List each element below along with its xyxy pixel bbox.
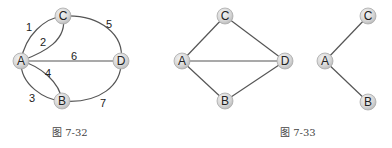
caption-figure-7-33: 图 7-33 <box>280 124 316 139</box>
caption-figure-7-32: 图 7-32 <box>52 124 88 139</box>
edge-a-c <box>325 16 368 61</box>
figure-7-33-graph-right: C A B <box>317 8 376 110</box>
edge-label-4: 4 <box>45 67 51 79</box>
edge-label-7: 7 <box>100 97 106 109</box>
svg-text:A: A <box>17 54 25 68</box>
edge-a-b <box>182 61 225 101</box>
node-a: A <box>317 53 333 69</box>
svg-text:C: C <box>59 9 68 23</box>
figure-7-33-graph-left: C A D B <box>174 8 293 109</box>
svg-text:C: C <box>221 9 230 23</box>
edge-label-3: 3 <box>29 92 35 104</box>
edge-a-c <box>182 16 225 61</box>
svg-text:A: A <box>178 54 186 68</box>
svg-text:D: D <box>117 54 126 68</box>
edge-3-a-b <box>21 61 62 101</box>
node-a: A <box>174 53 190 69</box>
edge-label-1: 1 <box>26 21 32 33</box>
edge-7-b-d <box>62 61 121 101</box>
figure-7-32: 1 2 3 4 5 6 7 C A D B <box>13 8 129 109</box>
node-b: B <box>360 94 376 110</box>
svg-text:D: D <box>281 54 290 68</box>
node-c: C <box>360 8 376 24</box>
edge-b-d <box>225 61 285 101</box>
node-c: C <box>217 8 233 24</box>
svg-text:B: B <box>58 94 66 108</box>
svg-text:A: A <box>321 54 329 68</box>
svg-text:B: B <box>221 94 229 108</box>
node-b: B <box>54 93 70 109</box>
edge-label-2: 2 <box>40 36 46 48</box>
node-a: A <box>13 53 29 69</box>
edge-a-b <box>325 61 368 102</box>
svg-text:B: B <box>364 95 372 109</box>
node-b: B <box>217 93 233 109</box>
svg-text:C: C <box>364 9 373 23</box>
edge-c-d <box>225 16 285 61</box>
edge-label-5: 5 <box>106 18 112 30</box>
node-c: C <box>55 8 71 24</box>
node-d: D <box>277 53 293 69</box>
node-d: D <box>113 53 129 69</box>
edge-label-6: 6 <box>71 50 77 62</box>
